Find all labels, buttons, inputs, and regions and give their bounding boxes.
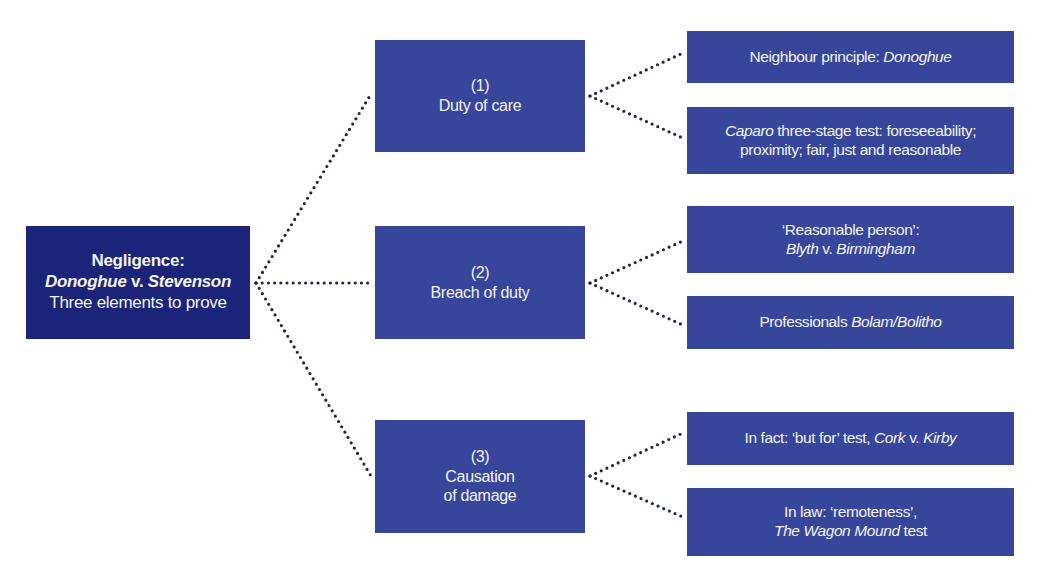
element-box-causation: (3) Causation of damage	[375, 420, 585, 533]
connector-causation-to-law	[590, 476, 685, 518]
element-label: Duty of care	[439, 96, 522, 116]
detail-box-caparo-test: Caparo three-stage test: foreseeability;…	[687, 107, 1014, 174]
connector-duty-to-neighbour	[590, 52, 685, 96]
root-title: Negligence:	[91, 251, 184, 272]
root-case-name: Donoghue v. Stevenson	[45, 272, 231, 293]
element-label: Causation	[445, 467, 514, 487]
connector-causation-to-fact	[590, 432, 685, 476]
root-box-negligence: Negligence: Donoghue v. Stevenson Three …	[26, 226, 250, 339]
element-box-duty-of-care: (1) Duty of care	[375, 40, 585, 152]
negligence-diagram: Negligence: Donoghue v. Stevenson Three …	[0, 0, 1040, 581]
detail-box-causation-in-law: In law: ‘remoteness’, The Wagon Mound te…	[687, 488, 1014, 556]
root-subtitle: Three elements to prove	[49, 293, 226, 314]
detail-box-professionals: Professionals Bolam/Bolitho	[687, 296, 1014, 349]
detail-box-reasonable-person: ‘Reasonable person’: Blyth v. Birmingham	[687, 206, 1014, 273]
connector-breach-to-reasonable	[590, 240, 685, 283]
element-label: Breach of duty	[431, 283, 530, 303]
detail-box-causation-in-fact: In fact: ‘but for’ test, Cork v. Kirby	[687, 412, 1014, 465]
element-label-line2: of damage	[444, 486, 517, 506]
element-number: (1)	[471, 76, 490, 96]
detail-box-neighbour-principle: Neighbour principle: Donoghue	[687, 31, 1014, 83]
connector-breach-to-professionals	[590, 283, 685, 326]
element-number: (2)	[471, 263, 490, 283]
connector-root-to-causation	[256, 283, 371, 476]
connector-duty-to-caparo	[590, 96, 685, 139]
element-box-breach-of-duty: (2) Breach of duty	[375, 226, 585, 339]
element-number: (3)	[471, 447, 490, 467]
connector-root-to-duty	[256, 94, 371, 283]
